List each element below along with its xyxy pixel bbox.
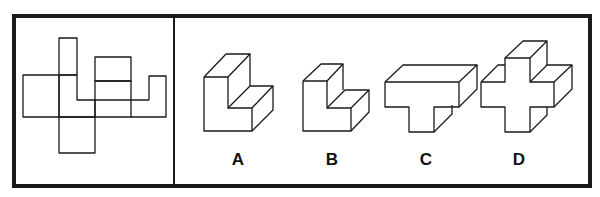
option-b-label[interactable]: B [317, 150, 347, 170]
option-c-figure [385, 65, 477, 132]
option-d-figure [481, 41, 572, 132]
option-a-figure [204, 54, 273, 131]
net-diagram [23, 38, 166, 153]
option-d-label[interactable]: D [504, 150, 534, 170]
option-a-label[interactable]: A [223, 150, 253, 170]
option-c-label[interactable]: C [411, 150, 441, 170]
option-b-figure [303, 64, 369, 131]
